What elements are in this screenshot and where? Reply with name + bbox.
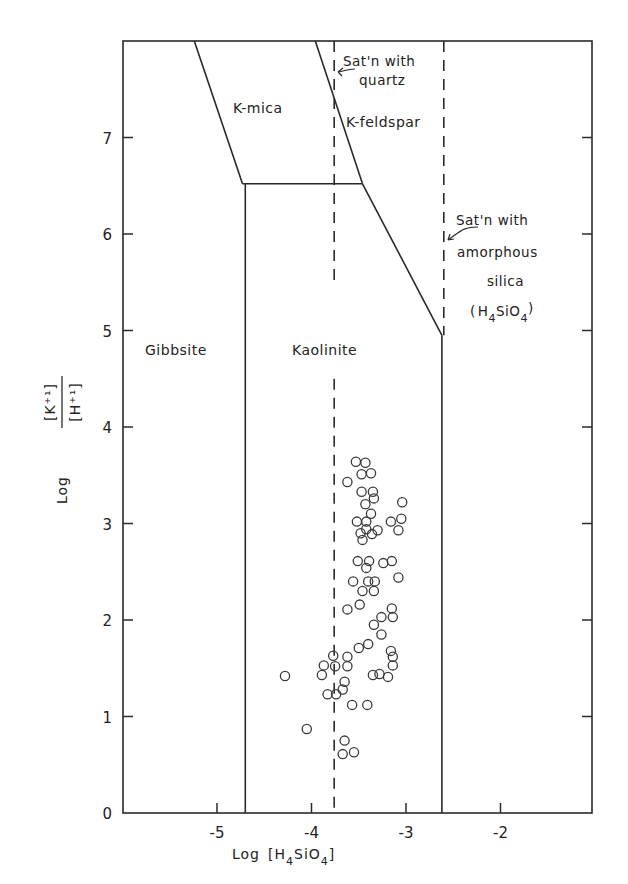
data-point <box>343 662 352 671</box>
amorphous-annotation-line2: amorphous <box>457 244 538 260</box>
saturation-lines <box>334 41 444 813</box>
data-point <box>329 651 338 660</box>
data-point <box>361 458 370 467</box>
data-point <box>361 500 370 509</box>
data-point <box>317 670 326 679</box>
data-points <box>280 457 406 759</box>
y-tick-label: 4 <box>102 419 112 437</box>
data-point <box>348 700 357 709</box>
data-point <box>379 559 388 568</box>
data-point <box>388 661 397 670</box>
data-point <box>349 577 358 586</box>
data-point <box>387 604 396 613</box>
data-point <box>302 724 311 733</box>
data-point <box>349 748 358 757</box>
data-point <box>394 526 403 535</box>
region-label-gibbsite: Gibbsite <box>145 342 207 358</box>
region-label-kaolinite: Kaolinite <box>292 342 357 358</box>
x-tick-label: -2 <box>493 824 508 842</box>
data-point <box>323 690 332 699</box>
y-axis-label-log: Log <box>54 476 70 504</box>
amorphous-arrow-icon <box>448 227 478 240</box>
data-point <box>343 477 352 486</box>
region-label-k-mica: K-mica <box>233 100 283 116</box>
phase-boundaries <box>194 41 442 813</box>
data-point <box>370 577 379 586</box>
y-tick-label: 0 <box>102 805 112 823</box>
data-point <box>369 586 378 595</box>
y-tick-label: 1 <box>102 709 112 727</box>
data-point <box>377 613 386 622</box>
data-point <box>319 661 328 670</box>
x-tick-label: -4 <box>304 824 319 842</box>
data-point <box>358 586 367 595</box>
data-point <box>377 630 386 639</box>
region-label-k-feldspar: K-feldspar <box>346 114 421 130</box>
x-tick-label: -3 <box>399 824 414 842</box>
data-point <box>363 700 372 709</box>
y-axis-label-denominator: [H⁺¹] <box>67 382 83 421</box>
data-point <box>332 690 341 699</box>
data-point <box>375 669 384 678</box>
y-tick-label: 3 <box>102 516 112 534</box>
data-point <box>398 498 407 507</box>
data-point <box>388 652 397 661</box>
data-point <box>355 600 364 609</box>
x-tick-label: -5 <box>210 824 225 842</box>
data-point <box>351 457 360 466</box>
stability-diagram: -5-4-3-201234567 Gibbsite Kaolinite K-mi… <box>0 0 628 884</box>
data-point <box>352 517 361 526</box>
phase-boundary <box>363 184 442 335</box>
data-point <box>354 643 363 652</box>
data-point <box>369 494 378 503</box>
x-axis-label: Log[H4SiO4] <box>232 846 335 868</box>
y-tick-label: 7 <box>102 130 112 148</box>
data-point <box>340 736 349 745</box>
data-point <box>383 672 392 681</box>
quartz-annotation-line2: quartz <box>359 72 405 88</box>
y-axis-label: Log [K⁺¹] [H⁺¹] <box>42 376 83 504</box>
data-point <box>387 557 396 566</box>
plot-frame <box>123 41 592 813</box>
data-point <box>338 750 347 759</box>
y-tick-label: 6 <box>102 226 112 244</box>
data-point <box>369 620 378 629</box>
y-tick-label: 5 <box>102 323 112 341</box>
data-point <box>366 469 375 478</box>
data-point <box>386 646 395 655</box>
data-point <box>357 470 366 479</box>
amorphous-annotation-line3: silica <box>487 273 524 289</box>
amorphous-annotation-formula: (H4SiO4) <box>470 300 534 325</box>
y-axis-label-numerator: [K⁺¹] <box>42 383 58 421</box>
data-point <box>331 662 340 671</box>
data-point <box>280 671 289 680</box>
axis-ticks: -5-4-3-201234567 <box>102 130 592 843</box>
data-point <box>343 652 352 661</box>
data-point <box>388 613 397 622</box>
quartz-arrow-icon <box>338 68 355 76</box>
data-point <box>386 517 395 526</box>
data-point <box>353 557 362 566</box>
data-point <box>394 573 403 582</box>
y-tick-label: 2 <box>102 612 112 630</box>
data-point <box>364 640 373 649</box>
amorphous-annotation-line1: Sat'n with <box>456 212 528 228</box>
data-point <box>343 605 352 614</box>
quartz-annotation-line1: Sat'n with <box>343 53 415 69</box>
data-point <box>397 514 406 523</box>
data-point <box>357 487 366 496</box>
